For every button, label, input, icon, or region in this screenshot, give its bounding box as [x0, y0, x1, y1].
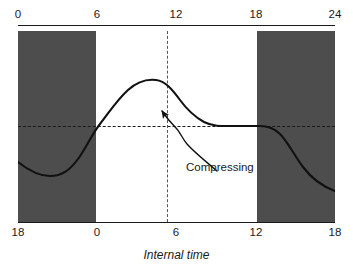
top-axis-tick-4: 24 [329, 9, 342, 21]
top-axis-tick-1: 6 [94, 9, 100, 21]
top-axis-tick-2: 12 [170, 9, 183, 21]
plot-area [18, 31, 335, 222]
bottom-axis-tick-4: 18 [329, 227, 342, 239]
x-axis-title: Internal time [0, 248, 353, 262]
bottom-axis-tick-3: 12 [250, 227, 263, 239]
bottom-axis-tick-2: 6 [173, 227, 179, 239]
annotation-arrow [18, 31, 335, 222]
bottom-axis-tick-1: 0 [94, 227, 100, 239]
top-axis-tick-0: 0 [15, 9, 21, 21]
top-axis-rule [18, 25, 335, 26]
bottom-axis-tick-0: 18 [12, 227, 25, 239]
chart-figure: 0 6 12 18 24 18 0 6 12 18 Compressing [0, 0, 353, 273]
bottom-axis-rule [18, 222, 335, 223]
top-axis-tick-3: 18 [250, 9, 263, 21]
annotation-label-compressing: Compressing [186, 161, 254, 173]
